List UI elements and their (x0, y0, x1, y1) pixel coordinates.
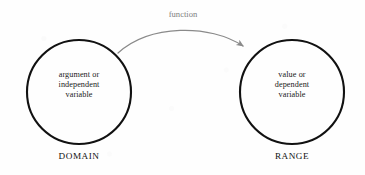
range-text-line-1: value or (240, 70, 344, 80)
range-caption: RANGE (240, 151, 344, 161)
range-text-line-3: variable (240, 90, 344, 100)
domain-text-line-1: argument or (27, 70, 131, 80)
range-circle-text: value or dependent variable (240, 70, 344, 100)
domain-text-line-3: variable (27, 90, 131, 100)
domain-caption: DOMAIN (27, 151, 131, 161)
domain-circle-text: argument or independent variable (27, 70, 131, 100)
range-text-line-2: dependent (240, 80, 344, 90)
domain-text-line-2: independent (27, 80, 131, 90)
diagram-canvas: function argument or independent variabl… (0, 0, 365, 175)
function-arrow (118, 30, 243, 53)
function-arrow-label: function (143, 9, 223, 19)
